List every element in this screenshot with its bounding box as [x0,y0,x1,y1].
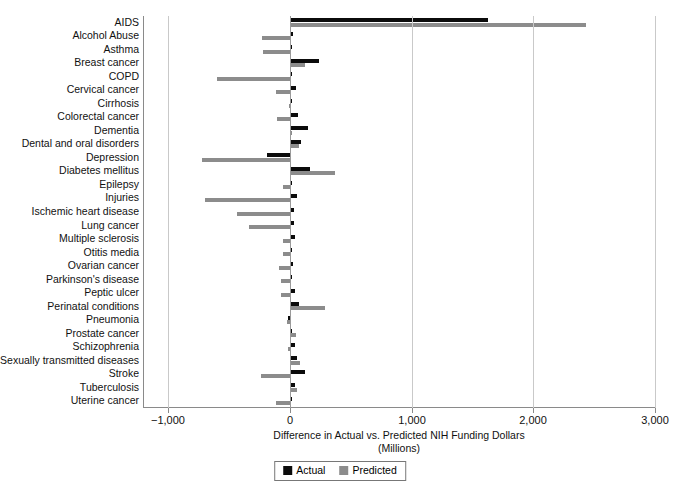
legend-entry-predicted[interactable]: Predicted [339,464,396,477]
bar-predicted-17 [283,252,290,256]
bar-predicted-9 [290,144,299,148]
bar-actual-26 [290,370,305,374]
bar-predicted-26 [261,374,290,378]
bar-predicted-25 [290,361,300,365]
bar-predicted-3 [290,63,305,67]
x-axis-title: Difference in Actual vs. Predicted NIH F… [143,429,655,442]
bar-predicted-12 [283,185,290,189]
legend-swatch-actual-icon [283,466,292,475]
gridline-1000 [412,16,413,408]
tick-mark-1000 [412,408,413,413]
bar-predicted-27 [290,388,297,392]
chart-legend: Actual Predicted [274,461,406,481]
legend-label-actual: Actual [296,464,325,477]
gridline-2000 [533,16,534,408]
bar-predicted-18 [279,266,290,270]
legend-label-predicted: Predicted [352,464,396,477]
bar-predicted-20 [281,293,290,297]
bar-predicted-21 [290,306,325,310]
tick-label-1000: 1,000 [398,414,426,427]
bar-predicted-11 [290,171,335,175]
nih-funding-chart: AIDSAlcohol AbuseAsthmaBreast cancerCOPD… [0,0,680,486]
bar-predicted-16 [283,239,290,243]
bar-predicted-7 [277,117,290,121]
gridline-0 [290,16,291,408]
legend-swatch-predicted-icon [339,466,348,475]
bar-actual-8 [290,126,308,130]
bar-predicted-2 [263,50,290,54]
bar-predicted-15 [249,225,290,229]
bar-predicted-13 [205,198,290,202]
tick-label-3000: 3,000 [641,414,669,427]
bar-actual-13 [290,194,297,198]
tick-label--1000: −1,000 [151,414,185,427]
bar-predicted-0 [290,23,586,27]
bar-predicted-14 [237,212,290,216]
tick-mark-3000 [655,408,656,413]
gridline-3000 [655,16,656,408]
bar-predicted-19 [281,279,290,283]
bar-predicted-5 [276,90,290,94]
tick-mark-2000 [533,408,534,413]
tick-mark-0 [290,408,291,413]
bar-predicted-28 [276,401,290,405]
x-axis-title-units: (Millions) [143,442,655,455]
bar-predicted-1 [262,36,290,40]
bars-layer [0,16,680,408]
bar-predicted-10 [202,158,290,162]
tick-mark--1000 [168,408,169,413]
bar-actual-7 [290,113,298,117]
tick-label-0: 0 [287,414,293,427]
bar-predicted-4 [217,77,290,81]
gridline--1000 [168,16,169,408]
tick-label-2000: 2,000 [519,414,547,427]
legend-entry-actual[interactable]: Actual [283,464,325,477]
